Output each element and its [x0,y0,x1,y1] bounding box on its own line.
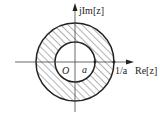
point-1-over-a [113,61,116,64]
inner-radius-label: a [82,64,87,75]
imaginary-axis-label: jIm[z] [78,5,104,16]
real-axis-label: Re[z] [135,65,157,76]
point-a [94,61,97,64]
complex-plane-diagram: jIm[z] Re[z] O a 1/a [0,0,168,118]
origin-label: O [62,65,69,76]
outer-radius-label: 1/a [115,65,128,76]
